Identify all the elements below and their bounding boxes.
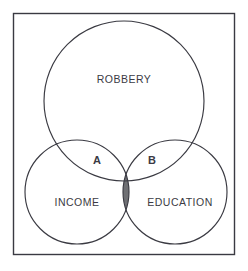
set-label-education: EDUCATION bbox=[147, 196, 213, 208]
venn-diagram-canvas: ROBBERY INCOME EDUCATION A B bbox=[0, 0, 248, 271]
region-label-a: A bbox=[93, 154, 101, 166]
region-label-b: B bbox=[148, 154, 156, 166]
set-label-robbery: ROBBERY bbox=[97, 73, 152, 85]
venn-diagram-figure: ROBBERY INCOME EDUCATION A B bbox=[0, 0, 248, 271]
set-label-income: INCOME bbox=[55, 196, 100, 208]
diagram-frame bbox=[14, 14, 235, 255]
